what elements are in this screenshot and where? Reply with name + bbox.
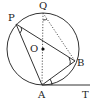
label-b: B [77,57,84,68]
segment-qb-dotted [43,13,75,61]
geometry-diagram: Q P O B A T [0,0,96,104]
center-dot [41,47,44,50]
label-a: A [37,89,46,100]
label-t: T [82,89,89,100]
label-o: O [30,43,38,54]
angle-mark-q [43,19,47,20]
segment-pb [16,24,75,61]
label-q: Q [39,0,47,11]
segment-pa [16,24,42,85]
angle-mark-p [20,27,22,33]
label-p: P [8,12,15,23]
